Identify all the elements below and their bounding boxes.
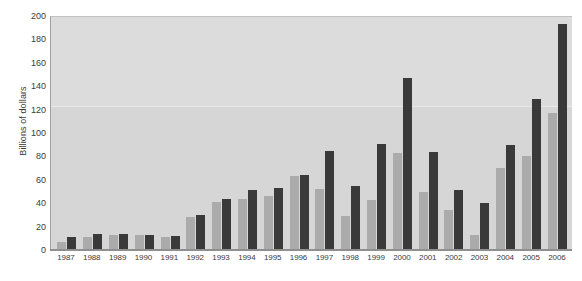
- bar-dark-series-1993: [222, 199, 231, 250]
- y-axis-tick-120: 120: [16, 105, 46, 114]
- bar-light-series-2002: [444, 210, 453, 250]
- x-axis-tick-2005: 2005: [518, 253, 544, 262]
- bar-group-1989: [106, 17, 132, 250]
- bar-group-1992: [183, 17, 209, 250]
- bar-chart: Billions of dollars 02040608010012014016…: [0, 0, 582, 281]
- x-axis-tick-1998: 1998: [337, 253, 363, 262]
- bar-group-2004: [493, 17, 519, 250]
- x-axis-tick-2004: 2004: [492, 253, 518, 262]
- x-axis-tick-1993: 1993: [208, 253, 234, 262]
- x-axis-tick-1997: 1997: [311, 253, 337, 262]
- bar-group-2006: [544, 17, 570, 250]
- bar-light-series-1997: [315, 189, 324, 250]
- x-axis-tick-1990: 1990: [131, 253, 157, 262]
- bar-dark-series-1996: [300, 175, 309, 250]
- bar-light-series-2001: [419, 192, 428, 251]
- x-axis-tick-1988: 1988: [79, 253, 105, 262]
- bar-light-series-1996: [290, 176, 299, 250]
- bar-dark-series-1992: [196, 215, 205, 250]
- bar-dark-series-1995: [274, 188, 283, 250]
- bar-group-1993: [209, 17, 235, 250]
- bar-group-2003: [467, 17, 493, 250]
- bar-group-1999: [364, 17, 390, 250]
- x-axis-tick-2003: 2003: [467, 253, 493, 262]
- bar-dark-series-2006: [558, 24, 567, 250]
- x-axis-tick-1992: 1992: [182, 253, 208, 262]
- bar-group-2001: [415, 17, 441, 250]
- x-axis-tick-2002: 2002: [441, 253, 467, 262]
- bar-light-series-2003: [470, 235, 479, 250]
- x-axis-tick-1996: 1996: [286, 253, 312, 262]
- bar-group-2002: [441, 17, 467, 250]
- y-axis-tick-labels: 020406080100120140160180200: [16, 16, 46, 250]
- y-axis-tick-160: 160: [16, 58, 46, 67]
- bar-group-2000: [389, 17, 415, 250]
- y-axis-tick-80: 80: [16, 152, 46, 161]
- bar-dark-series-1988: [93, 234, 102, 250]
- y-axis-tick-0: 0: [16, 246, 46, 255]
- x-axis-tick-labels: 1987198819891990199119921993199419951996…: [50, 253, 572, 262]
- bar-group-1991: [157, 17, 183, 250]
- plot-area: [50, 16, 572, 250]
- bar-light-series-1999: [367, 200, 376, 250]
- x-axis-tick-1995: 1995: [260, 253, 286, 262]
- x-axis-tick-1994: 1994: [234, 253, 260, 262]
- bar-light-series-1994: [238, 199, 247, 250]
- bar-group-2005: [518, 17, 544, 250]
- bar-dark-series-2001: [429, 152, 438, 250]
- bar-group-1997: [312, 17, 338, 250]
- bar-group-1990: [131, 17, 157, 250]
- bar-group-1996: [286, 17, 312, 250]
- bar-dark-series-1990: [145, 235, 154, 250]
- bar-light-series-1989: [109, 235, 118, 250]
- y-axis-tick-60: 60: [16, 175, 46, 184]
- bar-light-series-2000: [393, 153, 402, 250]
- y-axis-tick-20: 20: [16, 222, 46, 231]
- bar-group-1988: [80, 17, 106, 250]
- bar-dark-series-1998: [351, 186, 360, 250]
- x-axis-tick-2001: 2001: [415, 253, 441, 262]
- y-axis-tick-100: 100: [16, 129, 46, 138]
- y-axis-tick-200: 200: [16, 12, 46, 21]
- bar-dark-series-1991: [171, 236, 180, 250]
- bar-group-1987: [54, 17, 80, 250]
- y-axis-tick-180: 180: [16, 35, 46, 44]
- x-axis-tick-2006: 2006: [544, 253, 570, 262]
- bar-dark-series-2000: [403, 78, 412, 250]
- bars-layer: [51, 17, 572, 250]
- bar-group-1995: [260, 17, 286, 250]
- x-axis-tick-1987: 1987: [53, 253, 79, 262]
- x-axis-tick-1999: 1999: [363, 253, 389, 262]
- bar-light-series-2006: [548, 113, 557, 250]
- bar-dark-series-1994: [248, 190, 257, 250]
- bar-light-series-1995: [264, 196, 273, 250]
- bar-light-series-1993: [212, 202, 221, 250]
- bar-light-series-2005: [522, 156, 531, 250]
- bar-dark-series-2002: [454, 190, 463, 250]
- bar-group-1998: [338, 17, 364, 250]
- bar-dark-series-1989: [119, 234, 128, 250]
- bar-dark-series-2004: [506, 145, 515, 250]
- bar-dark-series-2003: [480, 203, 489, 250]
- bar-group-1994: [235, 17, 261, 250]
- y-axis-tick-40: 40: [16, 199, 46, 208]
- bar-dark-series-2005: [532, 99, 541, 250]
- bar-light-series-1998: [341, 216, 350, 250]
- x-axis-tick-1989: 1989: [105, 253, 131, 262]
- bar-light-series-1992: [186, 217, 195, 250]
- bar-light-series-2004: [496, 168, 505, 250]
- x-axis-tick-1991: 1991: [156, 253, 182, 262]
- x-axis-tick-2000: 2000: [389, 253, 415, 262]
- y-axis-tick-140: 140: [16, 82, 46, 91]
- bar-dark-series-1999: [377, 144, 386, 250]
- x-axis-line: [50, 249, 572, 251]
- bar-light-series-1990: [135, 235, 144, 250]
- bar-dark-series-1997: [325, 151, 334, 250]
